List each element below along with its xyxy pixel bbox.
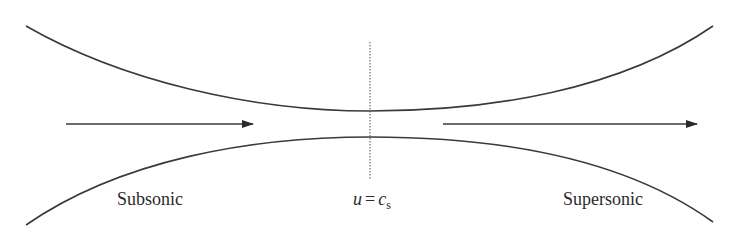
upper-nozzle-wall bbox=[26, 26, 713, 111]
equals-sign: = bbox=[365, 189, 375, 209]
subsonic-label: Subsonic bbox=[117, 190, 183, 208]
sound-speed-symbol: c bbox=[378, 189, 386, 209]
supersonic-label: Supersonic bbox=[563, 190, 643, 208]
throat-condition-label: u=cs bbox=[353, 190, 391, 211]
sound-speed-subscript: s bbox=[386, 198, 391, 212]
velocity-symbol: u bbox=[353, 189, 362, 209]
nozzle-diagram: Subsonic u=cs Supersonic bbox=[0, 0, 740, 242]
